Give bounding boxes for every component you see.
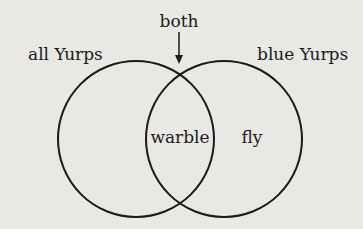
- venn-diagram: both all Yurps blue Yurps warble fly: [0, 0, 363, 229]
- label-both: both: [160, 11, 199, 31]
- label-warble: warble: [150, 127, 209, 147]
- label-fly: fly: [242, 127, 263, 147]
- label-all-yurps: all Yurps: [28, 44, 103, 64]
- label-blue-yurps: blue Yurps: [257, 44, 348, 64]
- arrow-head-icon: [175, 55, 183, 64]
